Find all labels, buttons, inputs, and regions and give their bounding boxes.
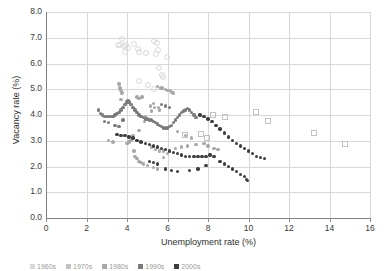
legend-item[interactable]: 1970s [66,263,92,270]
scatter-point [239,173,242,176]
legend-label: 1990s [145,263,164,270]
plot-area [46,12,370,218]
scatter-point [149,104,152,107]
gridline-horizontal [46,64,370,65]
scatter-point [227,135,230,138]
y-tick-label: 0.0 [16,213,42,222]
scatter-point [150,109,153,112]
scatter-point [342,141,348,147]
scatter-point [227,165,230,168]
legend-item[interactable]: 1990s [138,263,164,270]
x-tick-mark [249,218,250,222]
scatter-point [142,162,145,165]
scatter-point [136,49,142,55]
legend-item[interactable]: 1980s [102,263,128,270]
legend-item[interactable]: 1960s [30,263,56,270]
scatter-point [156,145,159,148]
scatter-point [121,106,124,109]
scatter-point [164,104,167,107]
y-axis-title: Vacancy rate (%) [11,50,21,170]
x-tick-label: 14 [318,224,342,233]
scatter-point [119,36,125,42]
scatter-point [210,120,213,123]
gridline-horizontal [46,89,370,90]
scatter-point [156,167,159,170]
legend-swatch [30,264,35,269]
scatter-point [196,155,199,158]
scatter-point [113,124,116,127]
scatter-point [208,153,211,156]
scatter-point [223,131,226,134]
scatter-point [144,142,147,145]
scatter-point [122,49,128,55]
scatter-point [140,95,143,98]
scatter-point [120,91,123,94]
scatter-point [231,167,234,170]
gridline-horizontal [46,115,370,116]
x-tick-label: 0 [34,224,58,233]
scatter-point [152,102,155,105]
legend-label: 1980s [109,263,128,270]
gridline-vertical [370,12,371,218]
scatter-point [125,142,128,145]
scatter-point [206,117,209,120]
scatter-point [168,149,171,152]
scatter-point [158,108,161,111]
x-tick-mark [168,218,169,222]
scatter-point [196,167,199,170]
gridline-horizontal [46,167,370,168]
scatter-point [212,155,215,158]
scatter-point [200,155,203,158]
scatter-point [204,135,210,141]
scatter-point [235,142,238,145]
scatter-point [117,125,120,128]
x-tick-mark [289,218,290,222]
scatter-point [206,144,209,147]
y-axis-spine [46,12,47,219]
x-tick-label: 12 [277,224,301,233]
scatter-point [223,162,226,165]
x-tick-label: 2 [75,224,99,233]
scatter-point [131,136,134,139]
scatter-point [265,118,271,124]
x-tick-label: 16 [358,224,382,233]
legend-label: 1960s [37,263,56,270]
scatter-point [153,106,156,109]
x-tick-mark [370,218,371,222]
x-tick-label: 4 [115,224,139,233]
scatter-point [214,124,217,127]
x-tick-mark [208,218,209,222]
legend-label: 2000s [181,263,200,270]
scatter-point [194,116,197,119]
y-tick-label: 1.0 [16,187,42,196]
scatter-point [218,127,221,130]
scatter-point [146,164,149,167]
scatter-point [119,98,122,101]
scatter-point [192,155,195,158]
y-tick-label: 8.0 [16,7,42,16]
scatter-point [123,134,126,137]
scatter-point [111,140,114,143]
scatter-point [154,40,160,46]
scatter-point [210,112,216,118]
scatter-point [115,133,118,136]
scatter-point [247,149,250,152]
scatter-point [152,144,155,147]
x-tick-mark [127,218,128,222]
x-tick-mark [46,218,47,222]
scatter-point [127,135,130,138]
scatter-point [202,115,205,118]
x-axis-title: Unemployment rate (%) [46,237,371,247]
legend-swatch [66,264,71,269]
scatter-point [148,160,151,163]
scatter-point [204,164,207,167]
legend-swatch [174,264,179,269]
legend-item[interactable]: 2000s [174,263,200,270]
x-tick-label: 8 [196,224,220,233]
scatter-point [218,160,221,163]
gridline-horizontal [46,141,370,142]
scatter-point [222,114,228,120]
legend-label: 1970s [73,263,92,270]
gridline-horizontal [46,192,370,193]
scatter-point [202,142,205,145]
